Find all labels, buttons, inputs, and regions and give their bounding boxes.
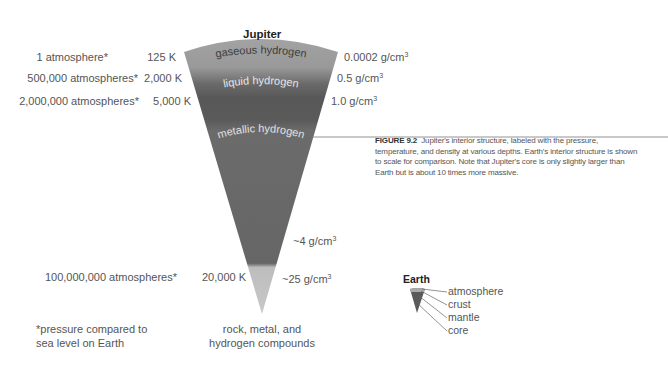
pressure-footnote: *pressure compared to sea level on Earth <box>36 322 147 350</box>
pressure-label: 500,000 atmospheres* <box>27 72 138 84</box>
temperature-label: 125 K <box>147 51 176 63</box>
pressure-label: 1 atmosphere* <box>36 51 108 63</box>
figure-label: FIGURE 9.2 <box>375 136 417 145</box>
figure-caption: FIGURE 9.2 Jupiter's interior structure,… <box>375 136 640 178</box>
density-label: 0.5 g/cm3 <box>337 72 383 84</box>
temperature-label: 2,000 K <box>144 72 182 84</box>
jupiter-title: Jupiter <box>243 28 281 40</box>
temperature-label: 20,000 K <box>202 271 246 283</box>
density-label: ~4 g/cm3 <box>293 235 336 247</box>
density-label: 1.0 g/cm3 <box>331 95 377 107</box>
temperature-label: 5,000 K <box>153 95 191 107</box>
core-description: rock, metal, and hydrogen compounds <box>200 322 324 350</box>
earth-layer-label: core <box>448 324 468 336</box>
pressure-label: 2,000,000 atmospheres* <box>19 95 139 107</box>
earth-layer-label: atmosphere <box>448 285 503 297</box>
density-label: ~25 g/cm3 <box>282 273 331 285</box>
earth-layer-label: mantle <box>448 311 480 323</box>
density-label: 0.0002 g/cm3 <box>344 51 408 63</box>
earth-title: Earth <box>403 273 430 285</box>
pressure-label: 100,000,000 atmospheres* <box>45 271 177 283</box>
earth-layer-label: crust <box>448 298 471 310</box>
